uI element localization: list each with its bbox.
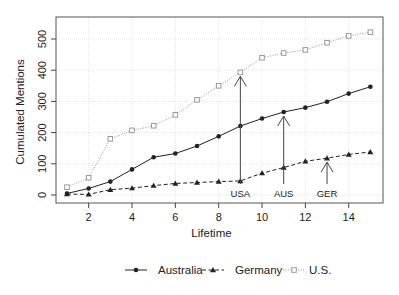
grid-lines	[56, 17, 383, 203]
x-tick-label: 12	[299, 211, 311, 223]
data-point-marker	[325, 40, 330, 45]
data-point-marker	[195, 144, 200, 149]
legend-item-australia: Australia	[125, 264, 203, 276]
annotations: USAAUSGER	[231, 76, 338, 199]
legend-marker-icon	[134, 268, 139, 273]
data-point-marker	[260, 116, 265, 121]
data-point-marker	[130, 128, 135, 133]
legend: AustraliaGermanyU.S.	[125, 264, 331, 276]
data-point-marker	[281, 110, 286, 115]
data-point-marker	[368, 84, 373, 89]
data-point-marker	[216, 84, 221, 89]
data-point-marker	[346, 91, 351, 96]
data-point-marker	[325, 99, 330, 104]
y-tick-label: 100	[36, 155, 48, 173]
data-point-marker	[303, 105, 308, 110]
data-point-marker	[367, 149, 373, 154]
x-tick-label: 14	[343, 211, 355, 223]
data-point-marker	[108, 137, 113, 142]
data-point-marker	[195, 98, 200, 103]
data-point-marker	[260, 55, 265, 60]
annotation-label: GER	[317, 188, 338, 199]
y-tick-label: 300	[36, 92, 48, 110]
data-point-marker	[238, 70, 243, 75]
data-point-marker	[259, 170, 265, 175]
y-tick-label: 400	[36, 61, 48, 79]
legend-item-us: U.S.	[283, 264, 331, 276]
annotation-label: AUS	[274, 188, 294, 199]
annotation-label: USA	[231, 188, 251, 199]
x-tick-label: 6	[172, 211, 178, 223]
line-chart: 0100200300400500 2468101214 Cumulated Me…	[0, 0, 399, 295]
x-tick-label: 4	[129, 211, 135, 223]
y-axis-title: Cumulated Mentions	[14, 59, 26, 165]
y-tick-label: 500	[36, 30, 48, 48]
data-point-marker	[368, 30, 373, 35]
legend-label: U.S.	[309, 264, 331, 276]
x-tick-label: 10	[256, 211, 268, 223]
y-axis: 0100200300400500	[36, 30, 56, 198]
x-tick-label: 8	[216, 211, 222, 223]
x-axis-title: Lifetime	[191, 227, 231, 239]
data-point-marker	[324, 155, 330, 160]
data-point-marker	[108, 179, 113, 184]
legend-label: Germany	[235, 264, 283, 276]
data-point-marker	[151, 183, 157, 188]
data-point-marker	[86, 176, 91, 181]
legend-item-germany: Germany	[202, 264, 283, 276]
y-tick-label: 0	[36, 192, 48, 198]
data-point-marker	[303, 48, 308, 53]
data-point-marker	[151, 155, 156, 160]
legend-marker-icon	[292, 268, 297, 273]
annotation-aus: AUS	[274, 116, 294, 199]
data-point-marker	[216, 134, 221, 139]
plot-area-border	[56, 17, 383, 203]
x-axis: 2468101214	[86, 203, 355, 223]
data-point-marker	[281, 51, 286, 56]
y-tick-label: 200	[36, 123, 48, 141]
data-point-marker	[346, 34, 351, 39]
data-point-marker	[86, 186, 91, 191]
annotation-usa: USA	[231, 76, 251, 199]
data-point-marker	[65, 185, 70, 190]
data-point-marker	[130, 167, 135, 172]
legend-label: Australia	[158, 264, 203, 276]
annotation-ger: GER	[317, 162, 338, 199]
data-point-marker	[173, 113, 178, 118]
data-point-marker	[173, 151, 178, 156]
x-tick-label: 2	[86, 211, 92, 223]
data-point-marker	[151, 123, 156, 128]
